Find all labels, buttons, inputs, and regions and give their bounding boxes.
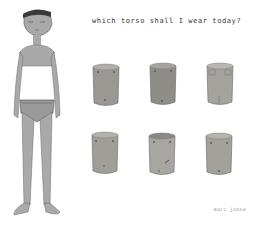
torso-option-2[interactable] [148,61,178,107]
torso-option-1[interactable] [91,62,121,108]
torso-option-5[interactable] [147,131,177,177]
standing-man-illustration [0,0,80,238]
torso-option-3[interactable] [205,61,235,107]
artwork-title: which torso shall I wear today? [92,17,241,25]
figure [0,0,80,238]
torso-option-4[interactable] [90,130,120,176]
artist-signature: marc johns [214,207,246,212]
torso-option-6[interactable] [204,131,234,177]
